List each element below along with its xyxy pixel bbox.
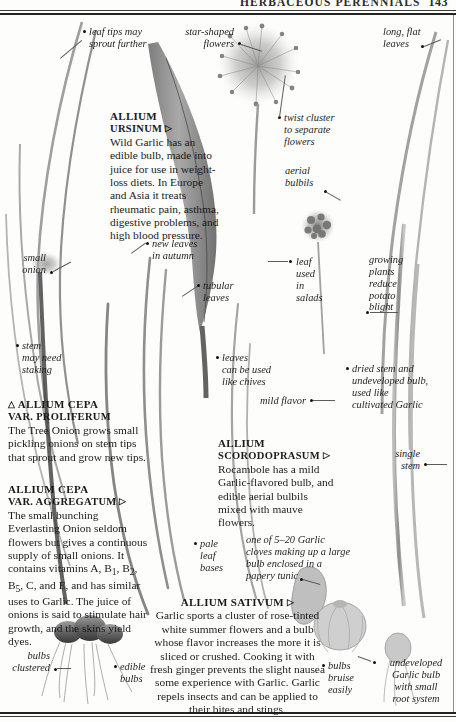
species-block-allium-cepa-aggregatum: ALLIUM CEPA VAR. AGGREGATUM ▷ The small … (8, 483, 152, 648)
species-subname: VAR. PROLIFERUM (8, 411, 148, 423)
callout-small-onion: small onion (2, 252, 46, 276)
triangle-marker: ▷ (165, 123, 172, 133)
species-block-allium-ursinum: ALLIUM URSINUM ▷ Wild Garlic has an edib… (110, 110, 222, 243)
callout-dot-dried-stem (346, 367, 349, 370)
callout-aerial-bulbils: aerial bulbils (285, 165, 313, 189)
callout-tubular-leaves: tubular leaves (203, 280, 234, 304)
callout-dot-pale-leaf-bases (194, 542, 197, 545)
leader-line-mild-flavor (313, 400, 335, 401)
species-name: ALLIUM (110, 110, 222, 123)
callout-dot-bulbs-bruise (322, 664, 325, 667)
callout-dot-leaves-chives (216, 356, 219, 359)
species-description: The Tree Onion grows small pickling onio… (8, 424, 148, 464)
callout-dot-growing-plants (366, 311, 369, 314)
species-name: ALLIUM SATIVUM ▷ (150, 596, 325, 609)
leader-line-undeveloped-garlic (358, 656, 371, 662)
callout-leaf-tips: leaf tips may sprout further (89, 26, 147, 50)
callout-dot-stem-staking (16, 344, 19, 347)
header-rule-thin (0, 10, 456, 11)
triangle-marker-up: △ (8, 399, 15, 409)
triangle-marker: ▷ (119, 496, 126, 506)
callout-mild-flavor: mild flavor (248, 395, 306, 407)
leader-line-leaf-salads (268, 261, 288, 262)
species-block-allium-cepa-proliferum: △ ALLIUM CEPA VAR. PROLIFERUM The Tree O… (8, 398, 148, 464)
leader-line-aerial-bulbils (327, 192, 341, 201)
species-block-allium-sativum: ALLIUM SATIVUM ▷ Garlic sports a cluster… (150, 596, 325, 716)
leader-line-small-onion (53, 262, 71, 272)
running-head-text: HERBACEOUS PERENNIALS 143 (240, 0, 448, 10)
header-rule-thick (0, 13, 456, 15)
callout-bulbs-bruise: bulbs bruise easily (328, 660, 354, 696)
callout-dot-edible-bulbs (114, 665, 117, 668)
callout-edible-bulbs: edible bulbs (120, 661, 145, 685)
callout-dot-undeveloped-garlic (373, 661, 376, 664)
leader-line-leaf-tips (60, 40, 82, 59)
leader-line-bulbs-clustered (57, 668, 71, 669)
leader-line-long-flat-leaves (424, 39, 441, 47)
species-subname: URSINUM ▷ (110, 123, 222, 135)
triangle-marker: ▷ (287, 597, 294, 607)
species-subname: VAR. AGGREGATUM ▷ (8, 496, 152, 508)
callout-dried-stem: dried stem and undeveloped bulb, used li… (352, 363, 428, 410)
leader-line-growing-plants (370, 312, 398, 313)
callout-twist-cluster: twist cluster to separate flowers (284, 112, 335, 148)
callout-pale-leaf-bases: pale leaf bases (200, 538, 223, 574)
callout-dot-new-leaves (146, 242, 149, 245)
page-number: 143 (429, 0, 449, 9)
leader-line-new-leaves (131, 242, 146, 253)
running-head-title: HERBACEOUS PERENNIALS (240, 0, 421, 8)
callout-dot-leaf-salads (289, 260, 292, 263)
species-name: △ ALLIUM CEPA (8, 398, 148, 411)
callout-leaves-chives: leaves can be used like chives (222, 352, 271, 388)
callout-long-flat-leaves: long, flat leaves (383, 26, 421, 50)
leader-line-star-flowers (241, 44, 262, 52)
frame-right-edge (453, 15, 454, 712)
encyclopedia-page: HERBACEOUS PERENNIALS 143 (0, 0, 456, 722)
leader-line-single-stem (427, 464, 447, 465)
triangle-marker: ▷ (323, 450, 330, 460)
species-subname: SCORODOPRASUM ▷ (218, 450, 338, 462)
leader-line-tubular-leaves (182, 286, 197, 297)
callout-undeveloped-garlic: undeveloped Garlic bulb with small root … (378, 657, 454, 704)
callout-garlic-cloves: one of 5–20 Garlic cloves making up a la… (246, 534, 350, 581)
callout-single-stem: single stem (376, 448, 420, 472)
callout-dot-leaf-tips (83, 30, 86, 33)
species-description: Garlic sports a cluster of rose-tinted w… (150, 609, 325, 716)
callout-new-leaves: new leaves in autumn (152, 238, 197, 262)
species-description: Rocambole has a mild Garlic-flavored bul… (218, 463, 338, 530)
leader-line-twist-cluster (279, 75, 286, 117)
species-name: ALLIUM (218, 437, 338, 450)
species-block-allium-scorodoprasum: ALLIUM SCORODOPRASUM ▷ Rocambole has a m… (218, 437, 338, 530)
callout-growing-plants: growing plants reduce potato blight (369, 254, 403, 313)
species-name: ALLIUM CEPA (8, 483, 152, 496)
callout-star-flowers: star-shaped flowers (168, 26, 234, 50)
callout-bulbs-clustered: bulbs clustered (2, 650, 50, 674)
callout-stem-staking: stem may need staking (22, 340, 62, 376)
callout-leaf-salads: leaf used in salads (296, 256, 323, 303)
species-description: The small bunching Everlasting Onion sel… (8, 509, 152, 649)
species-description: Wild Garlic has an edible bulb, made int… (110, 136, 222, 243)
